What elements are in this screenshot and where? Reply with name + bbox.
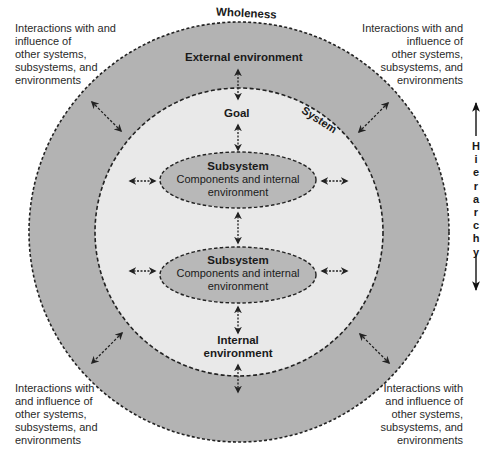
hierarchy-letter: c [469,219,483,232]
hierarchy-letter: e [469,166,483,179]
subsystem-1-line2: environment [163,186,313,199]
note-line: Interactions with [15,382,98,395]
internal-environment-label: Internal environment [188,334,288,360]
hierarchy-letter: r [469,206,483,219]
note-line: environments [362,74,463,87]
internal-environment-line2: environment [188,347,288,360]
note-line: other systems, [362,48,463,61]
note-line: environments [15,74,116,87]
note-line: other systems, [380,408,463,421]
subsystem-2-line1: Components and internal [163,267,313,280]
note-line: and influence of [380,395,463,408]
hierarchy-letter: y [469,246,483,259]
corner-note-top-left: Interactions with and influence of other… [15,22,116,87]
note-line: subsystems, and [15,61,116,74]
goal-label: Goal [224,107,250,119]
hierarchy-letter: r [469,180,483,193]
hierarchy-letter: h [469,232,483,245]
note-line: subsystems, and [362,61,463,74]
hierarchy-letter: i [469,153,483,166]
note-line: environments [15,434,98,447]
subsystem-2-title: Subsystem [163,254,313,267]
internal-environment-line1: Internal [188,334,288,347]
note-line: other systems, [15,408,98,421]
note-line: subsystems, and [15,421,98,434]
subsystem-1-text: Subsystem Components and internal enviro… [163,160,313,199]
note-line: influence of [15,35,116,48]
note-line: other systems, [15,48,116,61]
corner-note-top-right: Interactions with and influence of other… [362,22,463,87]
subsystem-1-title: Subsystem [163,160,313,173]
note-line: Interactions with [380,382,463,395]
external-environment-label: External environment [185,51,303,63]
hierarchy-letter: H [469,140,483,153]
subsystem-2-line2: environment [163,280,313,293]
note-line: and influence of [15,395,98,408]
note-line: Interactions with and [362,22,463,35]
corner-note-bottom-left: Interactions with and influence of other… [15,382,98,447]
note-line: subsystems, and [380,421,463,434]
hierarchy-letter: a [469,193,483,206]
note-line: influence of [362,35,463,48]
system-inner-circle [95,88,383,376]
hierarchy-label: H i e r a r c h y [469,140,483,259]
corner-note-bottom-right: Interactions with and influence of other… [380,382,463,447]
note-line: Interactions with and [15,22,116,35]
note-line: environments [380,434,463,447]
subsystem-2-text: Subsystem Components and internal enviro… [163,254,313,293]
subsystem-1-line1: Components and internal [163,173,313,186]
